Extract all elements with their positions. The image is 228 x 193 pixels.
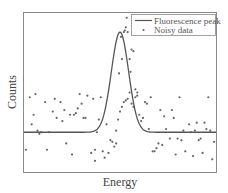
data-point [34,93,36,95]
data-point [184,150,186,152]
data-point [98,118,100,120]
data-point [54,98,56,100]
data-point [90,152,92,154]
data-point [201,152,203,154]
data-point [81,103,83,105]
data-point [209,130,211,132]
data-point [157,142,159,144]
data-point [100,96,102,98]
data-point [152,150,154,152]
data-point [69,114,71,116]
data-point [192,155,194,157]
data-point [169,138,171,140]
data-point [138,114,140,116]
y-axis-label: Counts [5,75,19,109]
data-point [188,123,190,125]
data-point [124,29,126,31]
data-point [182,130,184,132]
legend-dot-icon [142,29,144,31]
data-point [111,141,113,143]
data-point [134,96,136,98]
data-point [177,138,179,140]
data-point [86,95,88,97]
data-point [171,109,173,111]
data-point [207,96,209,98]
data-point [29,96,31,98]
data-point [173,117,175,119]
data-point [25,149,27,151]
data-point [107,152,109,154]
data-point [194,130,196,132]
data-point [211,158,213,160]
data-point [33,114,35,116]
data-point [56,117,58,119]
data-point [150,96,152,98]
data-point [102,150,104,152]
data-point [75,112,77,114]
data-point [105,123,107,125]
data-point [113,145,115,147]
data-point [119,110,121,112]
data-point [73,114,75,116]
data-point [146,103,148,105]
data-point [46,149,48,151]
data-point [92,98,94,100]
legend: Fluorescence peak Noisy data [132,15,222,36]
data-point [136,95,138,97]
x-axis-label: Energy [103,175,137,189]
data-point [144,101,146,103]
legend-label-noisy: Noisy data [154,25,193,35]
data-point [125,99,127,101]
data-point [65,142,67,144]
data-point [165,128,167,130]
data-point [120,36,122,38]
data-point [52,110,54,112]
data-point [180,139,182,141]
data-point [104,157,106,159]
data-point [203,122,205,124]
data-point [63,109,65,111]
data-point [123,101,125,103]
data-point [82,117,84,119]
data-point [163,115,165,117]
data-point [140,120,142,122]
data-point [84,117,86,119]
data-point [136,91,138,93]
data-point [129,71,131,73]
data-point [44,101,46,103]
data-point [148,128,150,130]
data-point [130,48,132,50]
data-point [161,144,163,146]
data-point [121,106,123,108]
data-point [125,26,127,28]
data-point [31,123,33,125]
data-point [77,107,79,109]
data-point [94,149,96,151]
data-point [59,101,61,103]
data-point [96,131,98,133]
chart: Fluorescence peak Noisy data Energy Coun… [0,0,228,193]
data-point [94,160,96,162]
data-point [153,150,155,152]
data-point [127,31,129,33]
data-point [175,153,177,155]
data-point [129,58,131,60]
data-point [142,117,144,119]
data-point [109,139,111,141]
data-point [115,142,117,144]
data-point [205,128,207,130]
data-point [126,17,128,19]
data-point [178,96,180,98]
data-point [38,133,40,135]
data-point [127,98,129,100]
data-point [79,93,81,95]
data-point [134,88,136,90]
data-point [198,139,200,141]
data-point [121,58,123,60]
data-point [155,147,157,149]
data-point [213,141,215,143]
data-point [159,109,161,111]
data-point [61,120,63,122]
data-point [200,138,202,140]
data-point [71,153,73,155]
